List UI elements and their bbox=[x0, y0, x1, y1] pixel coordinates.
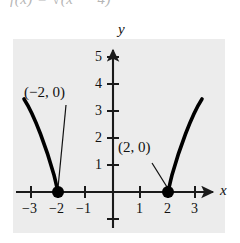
y-tick-label-3: 3 bbox=[95, 104, 102, 118]
y-tick-label-1: 1 bbox=[95, 158, 102, 172]
leader-line-right bbox=[152, 163, 167, 187]
x-tick-label-minus2: −2 bbox=[49, 202, 64, 216]
x-tick-label-3: 3 bbox=[191, 202, 198, 216]
y-tick-label-2: 2 bbox=[95, 131, 102, 145]
point-marker-right-intercept bbox=[162, 186, 174, 198]
right-intercept-label: (2, 0) bbox=[118, 140, 151, 155]
leader-line-left bbox=[58, 105, 66, 188]
x-tick-label-1: 1 bbox=[136, 202, 143, 216]
y-tick-label-5: 5 bbox=[95, 50, 102, 64]
x-tick-label-2: 2 bbox=[164, 202, 171, 216]
y-tick-label-4: 4 bbox=[95, 77, 102, 91]
y-axis-label: y bbox=[118, 22, 125, 37]
point-marker-left-intercept bbox=[52, 186, 64, 198]
x-axis-label: x bbox=[220, 183, 227, 198]
left-intercept-label: (−2, 0) bbox=[24, 85, 65, 100]
curve-left-branch bbox=[24, 99, 58, 192]
x-tick-label-minus1: −1 bbox=[76, 202, 91, 216]
x-tick-label-minus3: −3 bbox=[22, 202, 37, 216]
curve-right-branch bbox=[168, 99, 202, 192]
x-axis bbox=[16, 186, 213, 198]
figure-root: f(x) = √(x² − 4) bbox=[0, 0, 240, 243]
